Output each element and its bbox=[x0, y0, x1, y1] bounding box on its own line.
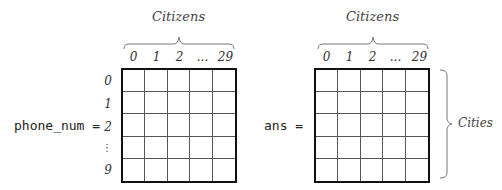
left-column-title: Citizens bbox=[152, 9, 205, 24]
right-col-tick-2: 2 bbox=[361, 50, 384, 64]
right-col-tick-4: 29 bbox=[408, 50, 431, 64]
right-col-tick-1: 1 bbox=[338, 50, 361, 64]
cities-label: Cities bbox=[458, 116, 493, 130]
left-col-tick-1: 1 bbox=[145, 50, 168, 64]
right-col-tick-3: ... bbox=[384, 50, 407, 64]
right-citizens-brace bbox=[318, 37, 428, 49]
ans-matrix bbox=[314, 68, 430, 183]
left-col-tick-2: 2 bbox=[168, 50, 191, 64]
cities-brace bbox=[440, 70, 452, 178]
ans-label: ans = bbox=[264, 118, 303, 133]
right-col-tick-0: 0 bbox=[315, 50, 338, 64]
left-citizens-brace bbox=[124, 37, 234, 49]
left-row-tick-9: 9 bbox=[96, 163, 112, 177]
left-row-tick-0: 0 bbox=[96, 74, 112, 88]
phone-num-matrix bbox=[121, 68, 237, 183]
phone-num-label: phone_num = bbox=[14, 118, 100, 133]
left-col-tick-4: 29 bbox=[214, 50, 237, 64]
right-column-title: Citizens bbox=[346, 9, 399, 24]
left-row-tick-ellipsis: ⋮ bbox=[96, 142, 112, 153]
left-col-tick-3: ... bbox=[191, 50, 214, 64]
left-row-tick-1: 1 bbox=[96, 97, 112, 111]
left-col-tick-0: 0 bbox=[122, 50, 145, 64]
